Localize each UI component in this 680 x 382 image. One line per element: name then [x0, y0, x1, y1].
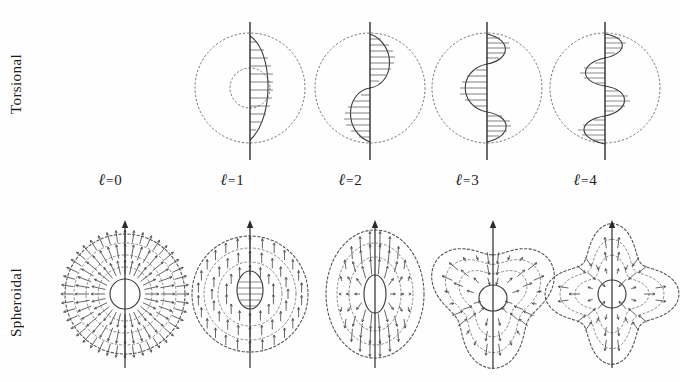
lobe-outline-1: [370, 34, 390, 88]
lobe-outline-3: [487, 112, 506, 142]
torsional-panel-l4: [540, 8, 670, 168]
ell-value: 4: [589, 172, 597, 188]
lobe-hatching-3: [605, 91, 630, 111]
equals-symbol: =: [105, 173, 114, 188]
torsional-diagram-l4: [540, 8, 670, 168]
axis-arrowhead: [247, 220, 253, 228]
equals-symbol: =: [345, 173, 354, 188]
torsional-panel-l1: [185, 8, 315, 168]
axis-arrowhead: [122, 220, 128, 228]
spheroidal-diagram-l4: [542, 206, 680, 378]
column-label-l3: ℓ=3: [422, 170, 512, 189]
torsional-diagram-l1: [185, 8, 315, 168]
lobe-hatching-3: [487, 116, 511, 136]
column-label-l1: ℓ=1: [187, 170, 277, 189]
lobe-outline-1: [487, 34, 505, 64]
spheroidal-panel-l1: [180, 206, 320, 378]
ell-value: 0: [114, 172, 122, 188]
column-label-l4: ℓ=4: [540, 170, 630, 189]
lobe-outline-1: [250, 36, 268, 140]
torsional-diagram-l3: [422, 8, 552, 168]
axis-arrowhead: [490, 220, 496, 228]
normal-mode-figure: Torsional Spheroidal: [0, 0, 680, 382]
ell-symbol: ℓ: [455, 170, 462, 189]
torsional-panel-l2: [305, 8, 435, 168]
axis-arrowhead: [372, 220, 378, 228]
lobe-hatching-1: [487, 38, 510, 58]
ell-value: 1: [236, 172, 244, 188]
equals-symbol: =: [580, 173, 589, 188]
lobe-hatching-4: [578, 120, 605, 140]
lobe-hatching-2: [580, 63, 605, 83]
lobe-outline-2: [585, 58, 605, 86]
row-label-torsional: Torsional: [8, 14, 25, 154]
ell-symbol: ℓ: [98, 170, 105, 189]
torsional-panel-l0: [60, 8, 190, 168]
lobe-hatching-1: [370, 39, 395, 81]
angular-order-label-row: ℓ=0 ℓ=1 ℓ=2 ℓ=3 ℓ=4: [0, 170, 680, 198]
column-label-l2: ℓ=2: [305, 170, 395, 189]
ell-symbol: ℓ: [573, 170, 580, 189]
lobe-hatching-2: [460, 70, 487, 106]
equals-symbol: =: [227, 173, 236, 188]
column-label-l0: ℓ=0: [65, 170, 155, 189]
equals-symbol: =: [462, 173, 471, 188]
lobe-outline-2: [350, 88, 370, 142]
spheroidal-diagram-l0: [55, 206, 195, 378]
lobe-hatching-2: [344, 95, 370, 137]
spheroidal-panel-l4: [542, 206, 680, 378]
row-label-spheroidal: Spheroidal: [8, 232, 25, 374]
ell-symbol: ℓ: [220, 170, 227, 189]
spheroidal-panel-l0: [55, 206, 195, 378]
lobe-outline-1: [605, 34, 622, 58]
spheroidal-diagram-l1: [180, 206, 320, 378]
torsional-panel-l3: [422, 8, 552, 168]
ell-value: 3: [471, 172, 479, 188]
torsional-diagram-l2: [305, 8, 435, 168]
lobe-hatching-1: [605, 38, 626, 53]
ell-value: 2: [354, 172, 362, 188]
torsional-diagram-l0: [60, 8, 190, 168]
ell-symbol: ℓ: [338, 170, 345, 189]
